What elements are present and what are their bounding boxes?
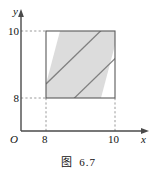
x-axis-label: x xyxy=(141,134,146,145)
figure-6-7: 10 8 8 10 O y x 图6.7 xyxy=(0,0,157,175)
figure-caption: 图6.7 xyxy=(0,153,157,169)
plot-area xyxy=(0,0,157,175)
origin-label: O xyxy=(10,134,18,145)
y-tick-label-8: 8 xyxy=(14,93,20,104)
y-tick-label-10: 10 xyxy=(8,26,19,37)
x-tick-label-8: 8 xyxy=(42,134,48,145)
caption-number: 6.7 xyxy=(79,156,96,168)
x-tick-label-10: 10 xyxy=(108,134,119,145)
caption-prefix: 图 xyxy=(61,156,73,168)
y-axis-arrow xyxy=(18,9,24,17)
y-axis-label: y xyxy=(13,6,18,17)
